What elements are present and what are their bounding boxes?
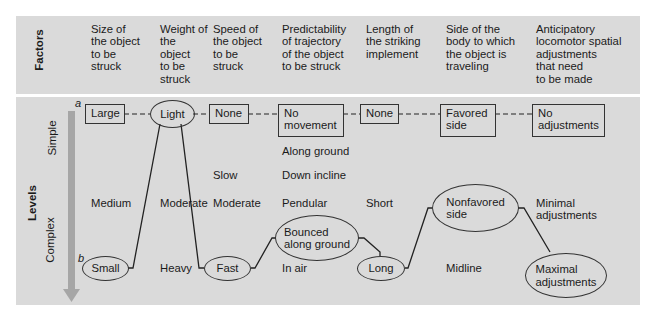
factor-header-side: Side of the body to which the object is … (446, 23, 515, 73)
predictability-bounced-node: Bounced along ground (275, 215, 359, 261)
predictability-medium: Pendular (282, 197, 327, 209)
predictability-complex: In air (282, 262, 307, 274)
speed-slow: Slow (213, 169, 238, 181)
weight-simple-node: Light (150, 100, 195, 128)
length-complex-node: Long (357, 256, 405, 281)
side-medium-node: Nonfavored side (432, 184, 519, 232)
levels-axis-label: Levels (26, 185, 38, 221)
factor-header-size: Size of the object to be struck (91, 23, 140, 73)
adjustments-simple-node: No adjustments (532, 104, 605, 137)
factor-header-predictability: Predictability of trajectory of the obje… (282, 23, 346, 73)
predictability-along-ground: Along ground (282, 145, 349, 157)
factor-header-weight: Weight of the object to be struck (160, 23, 208, 85)
weight-medium: Moderate (160, 197, 208, 209)
factor-header-length: Length of the striking implement (366, 23, 421, 60)
size-medium: Medium (91, 197, 131, 209)
factor-header-speed: Speed of the object to be struck (213, 23, 262, 73)
speed-simple-node: None (209, 104, 249, 124)
marker-b: b (78, 252, 84, 264)
size-complex-node: Small (82, 256, 129, 281)
marker-a: a (75, 97, 81, 109)
adjustments-medium: Minimal adjustments (536, 197, 597, 222)
side-complex: Midline (446, 262, 482, 274)
adjustments-complex-node: Maximal adjustments (525, 253, 607, 298)
predictability-down-incline: Down incline (282, 169, 346, 181)
length-medium: Short (366, 197, 393, 209)
size-simple-node: Large (85, 104, 125, 124)
complex-label: Complex (44, 217, 56, 262)
length-simple-node: None (360, 104, 399, 124)
predictability-simple-node: No movement (278, 104, 344, 137)
factor-header-adjustments: Anticipatory locomotor spatial adjustmen… (536, 23, 621, 85)
speed-complex-node: Fast (204, 256, 251, 281)
factors-axis-label: Factors (33, 29, 45, 71)
side-simple-node: Favored side (440, 104, 496, 137)
weight-complex: Heavy (160, 262, 192, 274)
simple-label: Simple (46, 120, 58, 155)
speed-medium: Moderate (213, 197, 261, 209)
